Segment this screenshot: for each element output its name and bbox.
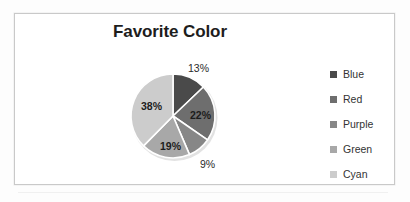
legend-swatch-red-icon [330, 96, 337, 103]
legend-item-purple[interactable]: Purple [330, 112, 392, 137]
legend-item-cyan[interactable]: Cyan [330, 162, 392, 187]
data-label-blue: 13% [188, 62, 209, 74]
legend-item-green[interactable]: Green [330, 137, 392, 162]
chart-legend: Blue Red Purple Green Cyan [330, 62, 392, 187]
legend-swatch-blue-icon [330, 71, 337, 78]
legend-swatch-cyan-icon [330, 171, 337, 178]
data-label-red: 22% [190, 109, 211, 121]
plot-area [125, 56, 245, 176]
scan-artifact-line [18, 192, 388, 193]
legend-label-purple: Purple [343, 119, 373, 130]
legend-swatch-green-icon [330, 146, 337, 153]
pie-chart-figure: Favorite Color 13% 22% 9% 19% 38% Blue R… [0, 0, 410, 202]
data-label-green: 19% [160, 140, 181, 152]
legend-label-blue: Blue [343, 69, 364, 80]
legend-label-red: Red [343, 94, 362, 105]
chart-title: Favorite Color [40, 22, 300, 42]
legend-label-cyan: Cyan [343, 169, 368, 180]
data-label-cyan: 38% [141, 100, 162, 112]
legend-label-green: Green [343, 144, 372, 155]
legend-item-blue[interactable]: Blue [330, 62, 392, 87]
legend-swatch-purple-icon [330, 121, 337, 128]
data-label-purple: 9% [200, 158, 215, 170]
pie-svg [125, 56, 245, 176]
legend-item-red[interactable]: Red [330, 87, 392, 112]
